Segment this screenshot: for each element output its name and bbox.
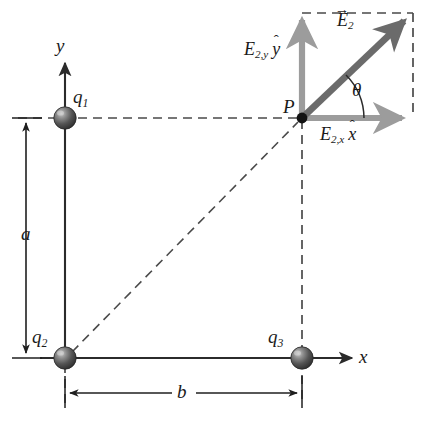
dashed-diagonal-q2-to-p [72,122,298,352]
charge-sphere-q1 [54,107,76,129]
field-resultant-symbol: →E [337,11,348,29]
y-hat-icon: ̂y [272,40,280,58]
charge-label-q3-base: q [268,326,278,347]
field-x-unit: x [348,124,356,144]
field-resultant-label: →E2 [337,11,354,32]
charge-label-q1-base: q [73,86,83,107]
dimension-a-label: a [21,224,31,243]
charge-label-q2-base: q [32,326,42,347]
vector-arrow-accent-icon: → [335,2,349,16]
point-p-marker [297,113,308,124]
theta-angle-label: θ [352,80,361,99]
field-resultant-sub: 2 [348,19,354,31]
field-x-component-base: E [320,124,331,144]
charge-label-q1-sub: 1 [83,97,89,110]
charge-label-q2-sub: 2 [42,337,48,350]
field-resultant-arrow [302,21,404,118]
charge-label-q3: q3 [268,327,283,349]
charge-label-q1: q1 [73,87,88,109]
x-hat-icon: ̂x [348,125,356,143]
point-p-label: P [283,97,295,116]
charge-label-q3-sub: 3 [278,337,284,350]
charge-sphere-q2 [54,347,76,369]
y-axis-label: y [56,36,64,55]
field-y-component-base: E [244,39,255,59]
field-x-component-label: E2,x̂x [320,125,356,146]
dimension-b-label: b [177,382,187,401]
field-y-component-label: E2,ŷy [244,40,280,61]
x-axis-label: x [359,347,367,366]
charge-label-q2: q2 [32,327,47,349]
field-x-component-sub: 2,x [331,133,344,145]
charge-sphere-q3 [291,347,313,369]
physics-figure: y x q1 q2 q3 P a b →E2 E2,ŷy E2,x̂x θ [0,0,422,425]
field-y-unit: y [272,39,280,59]
field-y-component-sub: 2,y [255,48,268,60]
